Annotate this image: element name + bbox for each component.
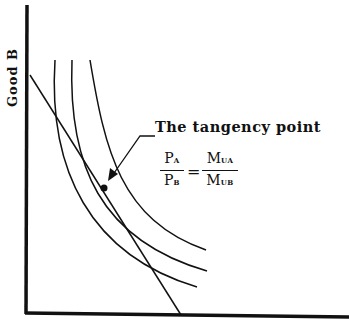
budget-line bbox=[30, 75, 181, 315]
y-axis bbox=[26, 5, 27, 314]
x-axis bbox=[25, 313, 349, 317]
tangency-annotation: The tangency point bbox=[155, 118, 321, 135]
tangency-point bbox=[101, 185, 108, 192]
indifference-curve-3 bbox=[90, 60, 206, 250]
price-ratio: PA PB bbox=[160, 150, 184, 191]
y-axis-label: Good B bbox=[5, 48, 20, 108]
diagram-canvas: Good B The tangency point PA PB = MUA MU… bbox=[0, 0, 349, 330]
marginal-utility-ratio: MUA MUB bbox=[202, 150, 238, 191]
equals-sign: = bbox=[187, 162, 200, 181]
